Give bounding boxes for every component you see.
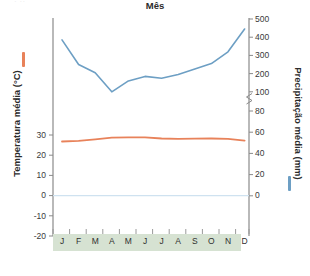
precip-tick-100: 100: [255, 88, 283, 97]
precip-tick-400: 400: [255, 33, 283, 42]
right-axis-ticks-lower: [249, 111, 253, 196]
temperature-line: [62, 137, 245, 141]
precipitation-axis-title: Precipitação média (mm): [293, 64, 304, 184]
month-label-nov: N: [220, 237, 236, 246]
temp-tick-neg10: -10: [20, 212, 46, 221]
month-label-feb: F: [71, 237, 87, 246]
precip-tick-80: 80: [255, 107, 283, 116]
temp-tick-0: 0: [20, 191, 46, 200]
month-label-may: M: [120, 237, 136, 246]
axis-break-icon: [247, 94, 253, 105]
month-label-dec: D: [237, 237, 253, 246]
precip-tick-40: 40: [255, 149, 283, 158]
precip-tick-20: 20: [255, 170, 283, 179]
month-label-jun: J: [137, 237, 153, 246]
precip-tick-300: 300: [255, 51, 283, 60]
temp-tick-20: 20: [20, 151, 46, 160]
legend-temperature-dash-icon: [22, 52, 25, 67]
month-label-mar: M: [87, 237, 103, 246]
precip-tick-200: 200: [255, 70, 283, 79]
precip-tick-500: 500: [255, 15, 283, 24]
temp-tick-30: 30: [20, 131, 46, 140]
month-label-sep: S: [187, 237, 203, 246]
month-label-oct: O: [203, 237, 219, 246]
month-label-jan: J: [54, 237, 70, 246]
precip-tick-60: 60: [255, 128, 283, 137]
temp-tick-10: 10: [20, 171, 46, 180]
legend-precipitation-dash-icon: [288, 176, 291, 191]
precip-tick-0: 0: [255, 191, 283, 200]
month-label-apr: A: [104, 237, 120, 246]
climate-chart: · ··: [0, 0, 310, 276]
precipitation-line: [62, 29, 245, 92]
temperature-axis-title: Temperatura média (°C): [11, 64, 22, 184]
right-axis-ticks-upper: [249, 19, 253, 92]
month-label-jul: J: [154, 237, 170, 246]
month-label-aug: A: [170, 237, 186, 246]
cropped-page-text-bottom: [0, 270, 310, 276]
temp-tick-neg20: -20: [20, 232, 46, 241]
